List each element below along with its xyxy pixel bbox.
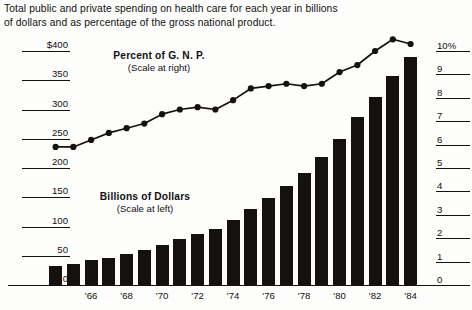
data-point	[337, 69, 343, 75]
right-axis-label: 0	[437, 274, 472, 285]
x-axis-label: '82	[369, 290, 382, 301]
chart-root: Total public and private spending on hea…	[0, 0, 472, 310]
bar	[191, 234, 204, 285]
x-axis-label: '70	[156, 290, 169, 301]
x-axis-label: '80	[333, 290, 346, 301]
data-point	[230, 97, 236, 103]
data-point	[212, 106, 218, 112]
right-axis-label: 2	[437, 227, 472, 238]
left-axis-label: 50	[10, 244, 68, 255]
left-axis-label: 100	[10, 215, 68, 226]
right-axis-label: 6	[437, 134, 472, 145]
left-gridline	[22, 51, 70, 52]
right-gridline	[436, 145, 470, 146]
right-axis-label: 8	[437, 87, 472, 98]
right-gridline	[436, 191, 470, 192]
right-gridline	[436, 215, 470, 216]
right-gridline	[436, 74, 470, 75]
data-point	[53, 144, 59, 150]
left-gridline	[22, 227, 70, 228]
data-point	[248, 85, 254, 91]
data-point	[301, 83, 307, 89]
data-point	[354, 62, 360, 68]
data-point	[159, 111, 165, 117]
right-axis-label: 9	[437, 63, 472, 74]
left-axis-label: $400	[10, 39, 68, 50]
right-gridline	[436, 98, 470, 99]
right-gridline	[436, 238, 470, 239]
right-gridline	[436, 168, 470, 169]
data-point	[283, 81, 289, 87]
legend-billions-dollars-scale: (Scale at left)	[82, 203, 208, 214]
bar	[173, 239, 186, 285]
right-gridline	[436, 51, 470, 52]
bar	[49, 266, 62, 285]
left-axis-label: 250	[10, 127, 68, 138]
bar	[369, 97, 382, 285]
left-gridline	[22, 80, 70, 81]
right-axis-label: 10%	[437, 40, 472, 51]
data-point	[372, 48, 378, 54]
bar	[102, 258, 115, 285]
left-axis-label: 300	[10, 98, 68, 109]
left-gridline	[22, 139, 70, 140]
bar	[244, 209, 257, 285]
data-point	[141, 120, 147, 126]
data-point	[319, 81, 325, 87]
left-axis-label: 150	[10, 185, 68, 196]
data-point	[106, 130, 112, 136]
right-axis-label: 1	[437, 251, 472, 262]
left-gridline	[22, 197, 70, 198]
left-gridline	[22, 168, 70, 169]
legend-billions-dollars-title: Billions of Dollars	[82, 191, 208, 202]
legend-percent-gnp: Percent of G. N. P. (Scale at right)	[94, 50, 224, 73]
right-axis-label: 5	[437, 157, 472, 168]
x-axis-label: '68	[120, 290, 133, 301]
bar	[404, 57, 417, 285]
data-point	[408, 41, 414, 47]
left-gridline	[22, 256, 70, 257]
bar	[67, 264, 80, 285]
bar	[209, 229, 222, 285]
data-point	[88, 137, 94, 143]
x-axis-label: '84	[404, 290, 417, 301]
x-axis-label: '76	[262, 290, 275, 301]
data-point	[124, 125, 130, 131]
bar	[333, 139, 346, 285]
legend-percent-gnp-scale: (Scale at right)	[94, 62, 224, 73]
legend-billions-dollars: Billions of Dollars (Scale at left)	[82, 191, 208, 214]
left-gridline	[22, 110, 70, 111]
plot-area: 050100150200250300350$400 012345678910% …	[0, 0, 472, 310]
data-point	[70, 144, 76, 150]
axis-baseline	[8, 285, 466, 286]
data-point	[195, 104, 201, 110]
x-axis-label: '74	[227, 290, 240, 301]
bar	[262, 198, 275, 285]
data-point	[266, 83, 272, 89]
right-axis-label: 3	[437, 204, 472, 215]
data-point	[177, 106, 183, 112]
bar	[85, 260, 98, 285]
bar	[280, 186, 293, 285]
right-gridline	[436, 121, 470, 122]
bar	[138, 250, 151, 285]
legend-percent-gnp-title: Percent of G. N. P.	[94, 50, 224, 61]
right-axis-label: 4	[437, 180, 472, 191]
bar	[386, 76, 399, 285]
bar	[120, 254, 133, 285]
right-gridline	[436, 262, 470, 263]
x-axis-label: '78	[298, 290, 311, 301]
right-axis-label: 7	[437, 110, 472, 121]
bar	[227, 220, 240, 285]
bar	[156, 245, 169, 285]
left-axis-label: 350	[10, 68, 68, 79]
x-axis-label: '66	[85, 290, 98, 301]
bar	[298, 173, 311, 285]
x-axis-label: '72	[191, 290, 204, 301]
bar	[315, 157, 328, 285]
left-axis-label: 200	[10, 156, 68, 167]
data-point	[390, 36, 396, 42]
bar	[351, 117, 364, 285]
